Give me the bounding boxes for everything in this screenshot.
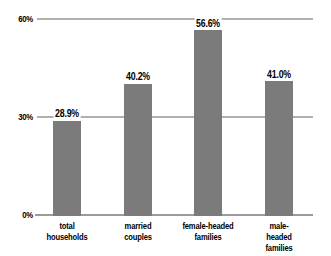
y-axis-tick-label: 0%: [6, 209, 33, 220]
value-label-female-headed-families: 56.6%: [195, 17, 222, 29]
y-axis-tick-label: 60%: [6, 13, 33, 24]
bar-female-headed-families: [194, 30, 222, 216]
category-label-female-headed-families: female-headed families: [182, 220, 233, 242]
value-label-total-households: 28.9%: [54, 107, 81, 119]
value-label-male-headed-families: 41.0%: [266, 68, 293, 80]
category-label-male-headed-families: male-headed families: [258, 220, 300, 253]
bar-married-couples: [124, 84, 152, 216]
value-label-married-couples: 40.2%: [125, 70, 152, 82]
gridline-60%: [37, 18, 313, 19]
bar-male-headed-families: [265, 81, 293, 216]
bar-chart: 0%30%60%28.9%total households40.2%marrie…: [0, 0, 331, 256]
category-label-married-couples: married couples: [124, 220, 152, 242]
category-label-total-households: total households: [46, 220, 87, 242]
y-axis-tick-label: 30%: [6, 111, 33, 122]
bar-total-households: [53, 121, 81, 216]
